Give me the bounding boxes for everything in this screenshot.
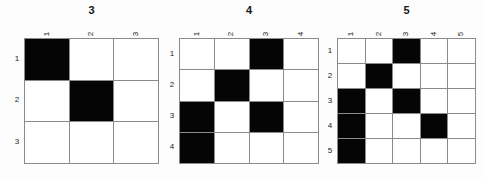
row-label-column: 1234 [165, 38, 179, 164]
grid-area: 123 [10, 38, 159, 164]
matrix-cell-r2c2 [366, 64, 394, 89]
panel-spacer [0, 0, 10, 1]
matrix-cell-r4c5 [448, 114, 476, 139]
panel-title: 5 [403, 4, 409, 18]
matrix-cell-r2c1 [25, 81, 70, 123]
row-label-3: 3 [323, 88, 337, 113]
column-label-text: 2 [375, 32, 383, 36]
matrix-cell-r5c3 [393, 139, 421, 164]
column-label-1: 1 [25, 21, 70, 38]
matrix-cell-r2c2 [70, 81, 115, 123]
column-label-text: 5 [458, 32, 466, 36]
column-label-text: 1 [43, 32, 51, 36]
row-label-2: 2 [323, 63, 337, 88]
column-label-4: 4 [284, 21, 319, 38]
column-label-text: 1 [347, 32, 355, 36]
matrix-cell-r1c1 [180, 39, 215, 70]
matrix-cell-r3c2 [366, 89, 394, 114]
column-label-5: 5 [448, 21, 476, 38]
column-label-text: 1 [193, 32, 201, 36]
matrix-cell-r2c2 [215, 70, 250, 101]
column-label-text: 4 [297, 32, 305, 36]
column-label-2: 2 [365, 21, 393, 38]
matrix-cell-r4c4 [421, 114, 449, 139]
column-label-3: 3 [249, 21, 284, 38]
matrix-cell-r4c3 [393, 114, 421, 139]
matrix-cell-r3c2 [70, 122, 115, 164]
column-label-text: 3 [262, 32, 270, 36]
matrix-cell-r2c1 [338, 64, 366, 89]
column-label-3: 3 [393, 21, 421, 38]
column-label-2: 2 [214, 21, 249, 38]
row-label-5: 5 [323, 138, 337, 163]
matrix-cell-r5c2 [366, 139, 394, 164]
panel-title: 3 [88, 4, 94, 18]
matrix-cell-r2c3 [114, 81, 159, 123]
row-label-4: 4 [323, 113, 337, 138]
matrix-cell-r3c3 [393, 89, 421, 114]
matrix-cell-r3c1 [25, 122, 70, 164]
matrix-cell-r4c2 [366, 114, 394, 139]
column-label-text: 4 [430, 32, 438, 36]
matrix-grid [337, 38, 476, 164]
matrix-cell-r2c3 [250, 70, 285, 101]
column-label-4: 4 [420, 21, 448, 38]
matrix-cell-r1c3 [393, 39, 421, 64]
matrix-cell-r2c5 [448, 64, 476, 89]
matrix-cell-r4c3 [250, 133, 285, 164]
matrix-cell-r3c1 [338, 89, 366, 114]
matrix-cell-r1c2 [70, 39, 115, 81]
column-label-text: 2 [87, 32, 95, 36]
panel-title: 4 [246, 4, 252, 18]
matrix-cell-r2c3 [393, 64, 421, 89]
matrix-cell-r1c2 [366, 39, 394, 64]
grid-area: 12345 [323, 38, 476, 164]
row-label-column: 12345 [323, 38, 337, 164]
matrix-cell-r4c4 [284, 133, 319, 164]
matrix-cell-r2c4 [284, 70, 319, 101]
column-header-row: 12345 [324, 21, 476, 38]
row-label-3: 3 [165, 101, 179, 132]
matrix-figure: 312312341234123451234512345 [0, 0, 482, 181]
matrix-grid [179, 38, 319, 164]
matrix-cell-r4c2 [215, 133, 250, 164]
row-label-column: 123 [10, 38, 24, 164]
matrix-grid [24, 38, 159, 164]
matrix-cell-r4c1 [180, 133, 215, 164]
row-label-1: 1 [323, 38, 337, 63]
matrix-panel-3: 3123123 [10, 0, 159, 164]
matrix-cell-r1c3 [114, 39, 159, 81]
column-label-1: 1 [180, 21, 215, 38]
matrix-cell-r1c4 [284, 39, 319, 70]
matrix-cell-r3c5 [448, 89, 476, 114]
matrix-panel-4: 412341234 [165, 0, 319, 164]
matrix-cell-r1c2 [215, 39, 250, 70]
column-label-text: 2 [228, 32, 236, 36]
matrix-cell-r1c4 [421, 39, 449, 64]
column-header-row: 1234 [166, 21, 319, 38]
matrix-cell-r1c5 [448, 39, 476, 64]
matrix-cell-r1c1 [338, 39, 366, 64]
matrix-cell-r3c4 [421, 89, 449, 114]
column-label-3: 3 [114, 21, 159, 38]
row-label-1: 1 [165, 38, 179, 69]
matrix-cell-r1c3 [250, 39, 285, 70]
matrix-cell-r3c2 [215, 102, 250, 133]
matrix-panel-5: 51234512345 [323, 0, 476, 164]
matrix-cell-r3c4 [284, 102, 319, 133]
row-label-4: 4 [165, 132, 179, 163]
matrix-cell-r4c1 [338, 114, 366, 139]
matrix-cell-r3c3 [114, 122, 159, 164]
column-label-2: 2 [69, 21, 114, 38]
row-label-2: 2 [165, 69, 179, 100]
matrix-cell-r2c4 [421, 64, 449, 89]
matrix-cell-r3c1 [180, 102, 215, 133]
grid-area: 1234 [165, 38, 319, 164]
row-label-2: 2 [10, 80, 24, 122]
row-label-3: 3 [10, 121, 24, 163]
column-label-1: 1 [338, 21, 366, 38]
matrix-cell-r5c4 [421, 139, 449, 164]
column-label-text: 3 [132, 32, 140, 36]
column-header-row: 123 [11, 21, 159, 38]
column-label-text: 3 [402, 32, 410, 36]
